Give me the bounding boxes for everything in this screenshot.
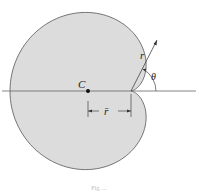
angle-label: θ <box>151 71 156 82</box>
centroid-distance-label: r̄ <box>104 105 109 117</box>
centroid-dot <box>86 89 90 93</box>
figure-caption: Fig. ... <box>91 185 107 191</box>
centroid-label: C <box>78 78 86 90</box>
radius-arrowhead <box>154 40 158 46</box>
radius-label: r <box>140 49 145 61</box>
cardioid-diagram: r θ C r̄ Fig. ... <box>0 0 199 193</box>
